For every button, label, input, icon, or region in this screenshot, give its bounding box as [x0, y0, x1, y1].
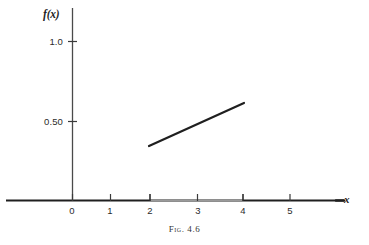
figure-container: f(x) x 1.0 0.50 0 1 2 3 4 5 Fig. 4.6 [0, 0, 369, 245]
x-tick-label-1: 1 [107, 205, 112, 216]
data-line-segment [149, 103, 244, 146]
x-tick-label-3: 3 [195, 205, 200, 216]
y-tick-label-1-0: 1.0 [32, 36, 63, 47]
figure-caption: Fig. 4.6 [0, 224, 369, 234]
y-tick-label-0-50: 0.50 [26, 116, 63, 127]
y-axis-label: f(x) [43, 8, 59, 20]
x-tick-label-4: 4 [240, 205, 245, 216]
x-tick-label-5: 5 [287, 205, 292, 216]
x-tick-label-2: 2 [147, 205, 152, 216]
x-tick-label-0: 0 [69, 205, 74, 216]
x-axis-label: x [344, 193, 350, 205]
